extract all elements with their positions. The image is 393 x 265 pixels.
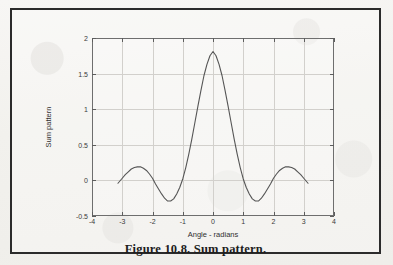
x-axis-label: Angle - radians (188, 230, 238, 239)
x-tick (334, 38, 335, 42)
plot-area: -4-3-2-101234 -0.500.511.52 Angle - radi… (92, 38, 334, 216)
figure-frame: -4-3-2-101234 -0.500.511.52 Angle - radi… (10, 8, 381, 254)
y-tick-label: 2 (84, 35, 88, 42)
x-tick-label: 1 (241, 218, 245, 225)
y-tick (92, 216, 96, 217)
sum-pattern-curve (92, 38, 334, 216)
y-tick-label: 0 (84, 177, 88, 184)
y-tick-label: 1 (84, 106, 88, 113)
x-tick (334, 212, 335, 216)
x-tick-label: 0 (211, 218, 215, 225)
curve-path (118, 52, 308, 202)
x-tick-label: -4 (89, 218, 95, 225)
y-tick-label: 1.5 (78, 70, 88, 77)
x-tick-label: 4 (332, 218, 336, 225)
x-tick-label: 3 (302, 218, 306, 225)
x-tick-label: 2 (272, 218, 276, 225)
x-tick-label: -3 (119, 218, 125, 225)
y-axis-label: Sum pattern (44, 107, 53, 148)
y-tick (330, 216, 334, 217)
x-tick-label: -1 (180, 218, 186, 225)
figure-caption: Figure 10.8. Sum pattern. (12, 242, 379, 257)
x-tick-label: -2 (149, 218, 155, 225)
y-tick-label: -0.5 (76, 213, 88, 220)
y-tick-label: 0.5 (78, 141, 88, 148)
